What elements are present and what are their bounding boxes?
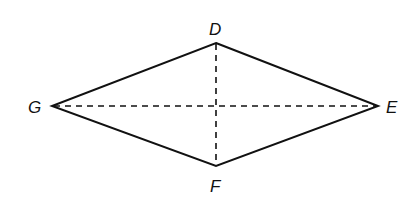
vertex-label-f: F bbox=[210, 177, 222, 196]
rhombus-outline bbox=[52, 43, 378, 166]
vertex-label-d: D bbox=[209, 20, 221, 39]
rhombus-diagram: D G E F bbox=[0, 0, 418, 206]
diagonals bbox=[54, 44, 376, 165]
vertex-label-e: E bbox=[386, 98, 398, 117]
vertex-label-g: G bbox=[28, 98, 41, 117]
